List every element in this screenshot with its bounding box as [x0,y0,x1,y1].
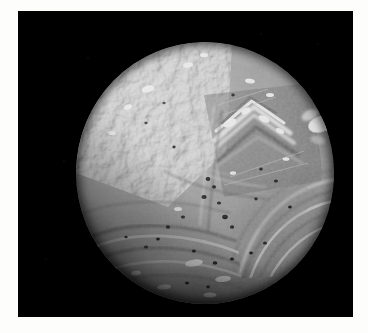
miranda-image [18,11,353,317]
page-root: Grayscale spacecraft image of the Urania… [0,0,368,333]
image-plate [18,11,353,317]
